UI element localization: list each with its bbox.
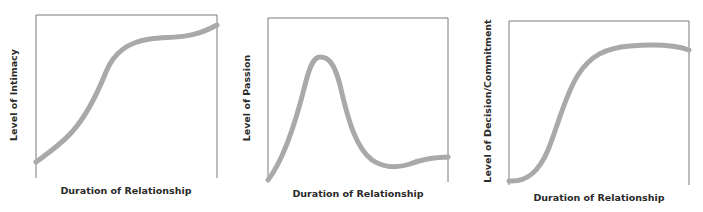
chart-frame [36, 15, 217, 178]
chart-commitment [509, 21, 689, 185]
figure: Level of Intimacy Duration of Relationsh… [0, 0, 703, 212]
x-axis-label-commitment: Duration of Relationship [533, 192, 664, 203]
x-axis-label-passion: Duration of Relationship [292, 188, 423, 199]
chart-passion [268, 18, 448, 182]
chart-frame [268, 18, 448, 182]
chart-intimacy [36, 15, 217, 178]
x-axis-label-intimacy: Duration of Relationship [60, 185, 191, 196]
passion-curve [268, 57, 448, 180]
y-axis-label-intimacy: Level of Intimacy [8, 49, 19, 141]
y-axis-label-passion: Level of Passion [241, 55, 252, 142]
intimacy-curve [36, 25, 217, 162]
y-axis-label-commitment: Level of Decision/Commitment [482, 19, 493, 182]
commitment-curve [509, 45, 689, 181]
charts-svg [0, 0, 703, 212]
